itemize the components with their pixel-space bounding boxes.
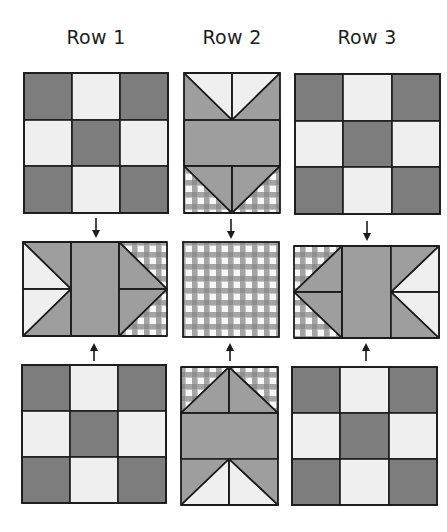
block-row3-middle-flying-geese xyxy=(294,246,439,338)
block-row3-top-nine-patch xyxy=(295,74,440,214)
block-row3-bottom-nine-patch xyxy=(292,367,437,505)
block-row2-top-flying-geese xyxy=(184,73,280,213)
arrow-up-icon xyxy=(362,343,370,361)
arrow-up-icon xyxy=(226,343,234,361)
block-row2-bottom-flying-geese xyxy=(181,367,278,505)
block-row1-middle-flying-geese xyxy=(23,242,167,336)
arrow-down-icon xyxy=(92,218,100,238)
quilt-assembly-diagram xyxy=(0,0,447,532)
block-row2-middle-gingham xyxy=(183,242,279,337)
arrow-up-icon xyxy=(90,343,98,361)
arrow-down-icon xyxy=(363,221,371,241)
block-row1-bottom-nine-patch xyxy=(22,365,166,503)
arrow-down-icon xyxy=(227,219,235,239)
block-row1-top-nine-patch xyxy=(24,73,168,213)
